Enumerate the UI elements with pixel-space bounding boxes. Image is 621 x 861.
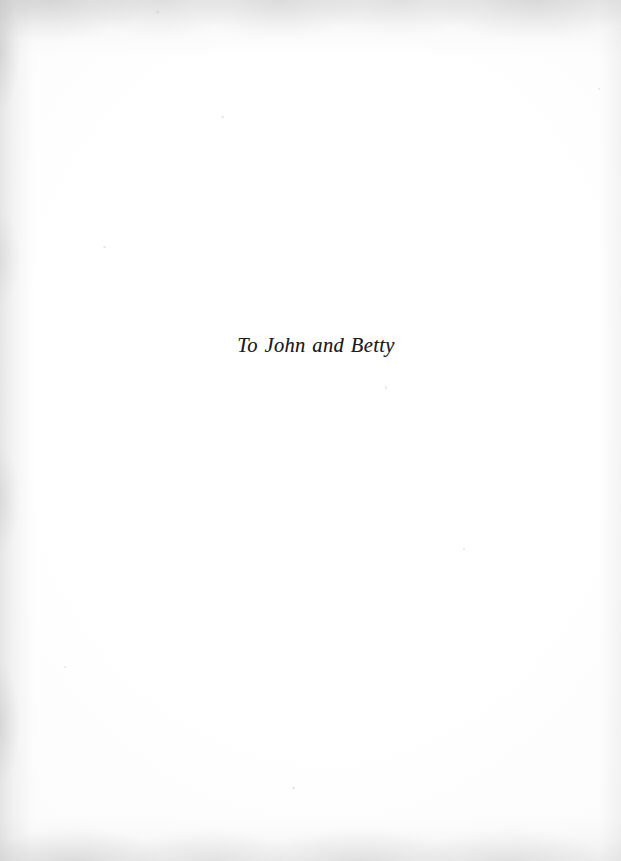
- paper-speck: [463, 548, 465, 550]
- scan-mottle-left: [0, 0, 26, 861]
- scan-shadow-top: [0, 0, 621, 58]
- paper-speck: [221, 116, 224, 118]
- paper-speck: [103, 246, 106, 248]
- paper-speck: [598, 88, 600, 90]
- dedication-text: To John and Betty: [237, 332, 394, 358]
- paper-speck: [385, 386, 387, 389]
- dedication-block: To John and Betty: [0, 332, 621, 358]
- scan-shadow-bottom: [0, 815, 621, 861]
- paper-speck: [292, 787, 295, 789]
- scan-shadow-right: [599, 0, 621, 861]
- paper-speck: [156, 11, 159, 13]
- paper-speck: [64, 666, 66, 668]
- dedication-page: To John and Betty: [0, 0, 621, 861]
- paper-background: [0, 0, 621, 861]
